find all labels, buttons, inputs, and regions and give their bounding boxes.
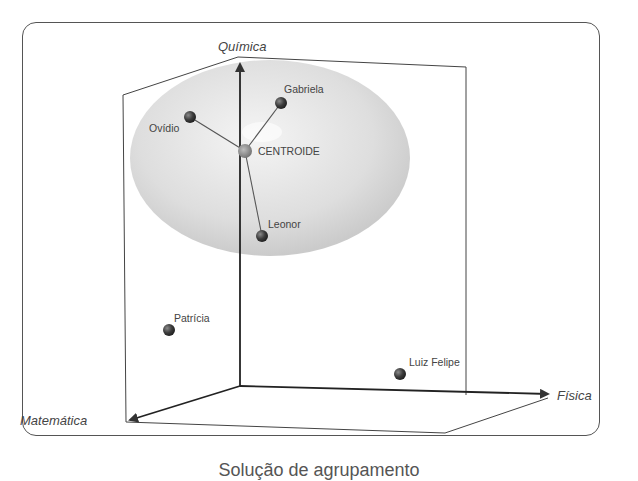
axis-matematica [130, 386, 240, 420]
axis-label-matematica: Matemática [20, 413, 87, 428]
axis-label-quimica: Química [218, 39, 266, 54]
point-leonor [256, 230, 268, 242]
label-leonor: Leonor [268, 218, 301, 230]
point-ovidio [184, 111, 196, 123]
label-luiz-felipe: Luiz Felipe [409, 356, 460, 368]
axis-fisica [240, 386, 548, 394]
figure-caption: Solução de agrupamento [0, 459, 638, 481]
point-patricia [163, 324, 175, 336]
label-centroide: CENTROIDE [258, 145, 320, 157]
point-centroide [238, 144, 252, 158]
label-gabriela: Gabriela [284, 83, 324, 95]
point-luiz-felipe [394, 368, 406, 380]
label-patricia: Patrícia [174, 312, 210, 324]
label-ovidio: Ovídio [149, 122, 180, 134]
point-gabriela [275, 97, 287, 109]
axis-label-fisica: Física [557, 388, 592, 403]
